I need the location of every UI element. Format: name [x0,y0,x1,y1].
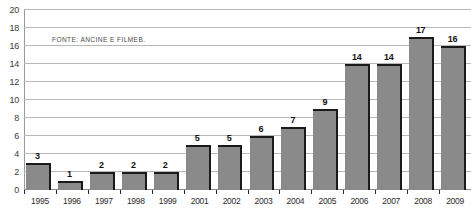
bar-value-label: 5 [216,133,243,143]
y-axis-tick-label: 4 [14,149,19,159]
x-axis-tick [407,190,408,194]
x-axis-tick-label: 2006 [350,196,368,206]
bar-value-label: 3 [24,151,51,161]
y-axis-tick-label: 10 [10,95,19,105]
x-axis-tick [216,190,217,194]
x-axis-tick [152,190,153,194]
x-axis-tick-label: 2001 [191,196,209,206]
x-axis-tick [56,190,57,194]
y-axis-tick-label: 0 [14,185,19,195]
x-axis-tick-label: 1996 [63,196,81,206]
x-axis-tick [184,190,185,194]
bar-value-label: 2 [120,160,147,170]
y-axis-tick-label: 12 [10,77,19,87]
bar-group: 14 [375,10,407,190]
bar-value-label: 2 [152,160,179,170]
x-axis-tick-label: 1998 [127,196,145,206]
bar [122,172,147,190]
y-axis-tick-label: 2 [14,167,19,177]
x-axis-tick-label: 2005 [318,196,336,206]
bar [409,37,434,190]
x-axis-tick [24,190,25,194]
bar-group: 14 [343,10,375,190]
bar-value-label: 5 [184,133,211,143]
x-axis-tick [279,190,280,194]
bar-value-label: 2 [88,160,115,170]
bar-chart: 02468101214161820 312225567914141716 FON… [0,0,471,217]
x-axis-tick-label: 2007 [382,196,400,206]
bar [250,136,275,190]
y-axis-tick-label: 16 [10,41,19,51]
x-axis-tick [120,190,121,194]
x-axis-tick [88,190,89,194]
x-axis: 1995199619971998199920012002200320042005… [24,190,471,217]
source-note: FONTE: ANCINE E FILMEB. [52,36,145,43]
y-axis-tick-label: 14 [10,59,19,69]
x-axis-tick-label: 1999 [159,196,177,206]
y-axis-tick-label: 8 [14,113,19,123]
bar [313,109,338,190]
bar [186,145,211,190]
x-axis-tick [375,190,376,194]
bar-group: 17 [407,10,439,190]
bar-value-label: 7 [279,115,306,125]
bar-group: 5 [216,10,248,190]
bar-value-label: 17 [407,25,434,35]
y-axis-tick-label: 6 [14,131,19,141]
bar-value-label: 14 [375,52,402,62]
bar-group: 16 [439,10,471,190]
bar [154,172,179,190]
x-axis-tick-label: 2008 [414,196,432,206]
y-axis-labels: 02468101214161820 [0,10,22,190]
x-axis-tick-label: 2009 [446,196,464,206]
bar-value-label: 9 [311,97,338,107]
bar-group: 5 [184,10,216,190]
bar [441,46,466,190]
x-axis-tick [248,190,249,194]
bar-group: 6 [248,10,280,190]
y-axis-tick-label: 20 [10,5,19,15]
bar [281,127,306,190]
x-axis-tick [439,190,440,194]
bar-group: 7 [279,10,311,190]
x-axis-tick-label: 2002 [223,196,241,206]
bar-value-label: 14 [343,52,370,62]
x-axis-tick-label: 2004 [287,196,305,206]
bar-value-label: 1 [56,169,83,179]
x-axis-tick-label: 1995 [31,196,49,206]
bar-value-label: 16 [439,34,466,44]
x-axis-tick-label: 1997 [95,196,113,206]
bar [345,64,370,190]
bar [90,172,115,190]
x-axis-tick [343,190,344,194]
bar [58,181,83,190]
y-axis-tick-label: 18 [10,23,19,33]
x-axis-tick [311,190,312,194]
bar-value-label: 6 [248,124,275,134]
bar [377,64,402,190]
bar [218,145,243,190]
x-axis-tick-label: 2003 [255,196,273,206]
bar-group: 2 [152,10,184,190]
bar [26,163,51,190]
bar-group: 9 [311,10,343,190]
